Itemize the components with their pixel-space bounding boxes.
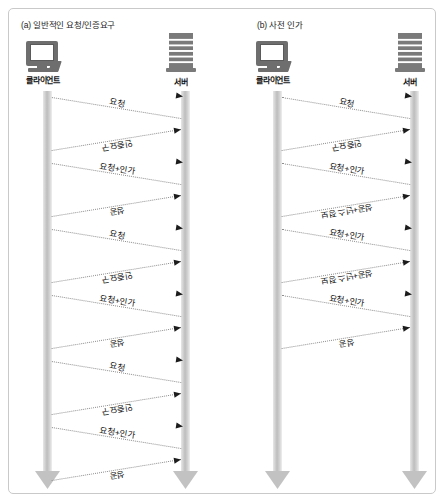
message-arrowhead (404, 159, 412, 166)
panel-b-title: (b) 사전 인가 (257, 18, 302, 30)
server-rack-icon (395, 33, 425, 75)
message-arrowhead (404, 225, 412, 232)
message-arrowhead (404, 93, 412, 100)
actor-client-a-label: 클라이언트 (13, 74, 73, 85)
message-label: 요청+인가 (282, 151, 412, 184)
lifeline-client-b-arrowhead (265, 471, 290, 487)
message-label: 요청 (52, 349, 183, 382)
lifeline-server-a-arrowhead (173, 471, 198, 487)
message-label: 요청 (52, 217, 183, 250)
message-label: 요청 (52, 85, 183, 118)
message-label: 요청+인가 (282, 217, 412, 250)
message-label: 요청+인가 (52, 415, 183, 448)
message-arrowhead (175, 423, 183, 430)
actor-server-b-label: 서버 (380, 76, 440, 87)
message-arrowhead (175, 357, 183, 364)
server-rack-icon (166, 33, 196, 75)
actor-client-b-label: 클라이언트 (243, 74, 303, 85)
actor-server-a-label: 서버 (151, 76, 211, 87)
message-arrowhead (175, 225, 183, 232)
lifeline-server-a (181, 91, 190, 471)
lifeline-server-b (410, 91, 419, 471)
message-label: 요청+인가 (52, 151, 183, 184)
message-label: 요청+인가 (282, 283, 412, 316)
message-arrowhead (175, 159, 183, 166)
panel-a-title: (a) 일반적인 요청/인증요구 (21, 18, 115, 30)
actor-server-a: 서버 (151, 33, 211, 87)
actor-client-b: 클라이언트 (243, 41, 303, 85)
message-label: 요청+인가 (52, 283, 183, 316)
message-arrowhead (404, 291, 412, 298)
sequence-diagram-panel-a: (a) 일반적인 요청/인증요구 클라이언트 서버 요청인증요 (9, 9, 224, 493)
message-label: 요청 (282, 85, 412, 118)
message-arrowhead (175, 93, 183, 100)
lifeline-client-b (273, 91, 282, 471)
figure-frame: (a) 일반적인 요청/인증요구 클라이언트 서버 요청인증요 (8, 8, 436, 494)
lifeline-server-b-arrowhead (402, 471, 427, 487)
monitor-icon (26, 41, 60, 73)
actor-client-a: 클라이언트 (13, 41, 73, 85)
monitor-icon (256, 41, 290, 73)
message-arrowhead (175, 291, 183, 298)
sequence-diagram-panel-b: (b) 사전 인가 클라이언트 서버 요청인증요구요청+인가성 (224, 9, 437, 493)
actor-server-b: 서버 (380, 33, 440, 87)
lifeline-client-a (43, 91, 52, 471)
